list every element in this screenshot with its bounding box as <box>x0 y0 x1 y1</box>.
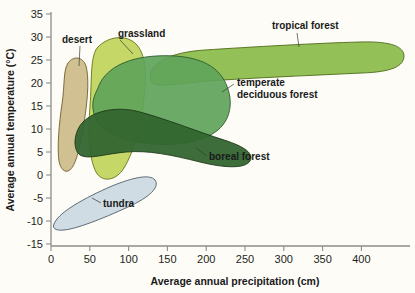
y-tick-label: -5 <box>33 192 43 204</box>
y-tick-label: 25 <box>31 54 43 66</box>
x-tick-label: 400 <box>352 253 370 265</box>
x-tick-label: 0 <box>48 253 54 265</box>
y-tick-label: 5 <box>37 146 43 158</box>
y-axis-title: Average annual temperature (°C) <box>4 48 16 211</box>
y-tick-label: 15 <box>31 100 43 112</box>
label-boreal-forest: boreal forest <box>209 151 270 162</box>
label-tropical-forest: tropical forest <box>272 20 339 31</box>
x-tick-label: 250 <box>236 253 254 265</box>
y-tick-label: 30 <box>31 31 43 43</box>
label-tundra: tundra <box>103 198 135 209</box>
y-tick-label: 0 <box>37 169 43 181</box>
x-axis-title: Average annual precipitation (cm) <box>151 275 320 287</box>
y-tick-label: 35 <box>31 8 43 20</box>
x-tick-label: 350 <box>313 253 331 265</box>
x-tick-label: 300 <box>275 253 293 265</box>
y-tick-label: 20 <box>31 77 43 89</box>
chart-canvas: 35 30 25 20 15 10 5 0 -5 -10 -15 0 50 10… <box>0 0 415 293</box>
x-tick-label: 150 <box>158 253 176 265</box>
label-desert: desert <box>62 34 93 45</box>
label-temperate-deciduous-forest-line1: temperate <box>237 77 285 88</box>
label-temperate-deciduous-forest-line2: deciduous forest <box>237 89 318 100</box>
y-tick-label: -10 <box>27 215 43 227</box>
label-grassland: grassland <box>118 28 165 39</box>
biome-climate-chart: 35 30 25 20 15 10 5 0 -5 -10 -15 0 50 10… <box>0 0 415 293</box>
x-tick-label: 100 <box>119 253 137 265</box>
y-tick-label: -15 <box>27 238 43 250</box>
x-tick-label: 50 <box>84 253 96 265</box>
y-tick-label: 10 <box>31 123 43 135</box>
x-tick-label: 200 <box>197 253 215 265</box>
